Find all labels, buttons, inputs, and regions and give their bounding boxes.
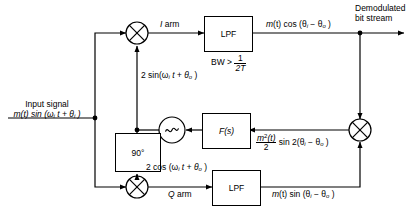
demod-line-1: Demodulated (355, 3, 406, 13)
q-carrier-label: 2 cos (ωi t + θo ) (146, 163, 207, 173)
block-diagram-canvas: LPF LPF F(s) 90° Input signal m(t) sin (… (0, 0, 418, 216)
q-arm-label: Q arm (168, 190, 192, 200)
input-to-i-mixer-wire (95, 33, 126, 118)
i-carrier-label: 2 sin(ωi t + θo ) (141, 71, 197, 81)
bandwidth-note: BW > 12T (211, 54, 246, 72)
input-signal-label: Input signal m(t) sin (ωi t + θi ) (13, 99, 80, 119)
phase-shifter-label: 90° (132, 148, 145, 158)
error-signal-expression: m2(t)2 sin 2(θi − θo ) (256, 133, 329, 152)
demodulated-output-label: Demodulated bit stream (355, 4, 406, 24)
input-signal-expression: m(t) sin (ωi t + θi ) (13, 109, 80, 119)
q-lowpass-filter-block[interactable]: LPF (212, 170, 261, 206)
q-output-expression: m(t) sin (θi − θo ) (272, 190, 335, 200)
bandwidth-fraction: 12T (234, 54, 246, 72)
i-output-expression: m(t) cos (θi − θo ) (266, 20, 331, 30)
error-fraction: m2(t)2 (256, 133, 276, 152)
i-lpf-label: LPF (221, 29, 237, 39)
loop-filter-label: F(s) (219, 126, 234, 136)
i-lowpass-filter-block[interactable]: LPF (204, 16, 253, 52)
input-signal-title: Input signal (13, 99, 80, 109)
demod-line-2: bit stream (355, 13, 392, 23)
loop-filter-block[interactable]: F(s) (202, 113, 251, 149)
i-arm-label: I arm (160, 20, 179, 30)
q-lpf-label: LPF (229, 183, 245, 193)
